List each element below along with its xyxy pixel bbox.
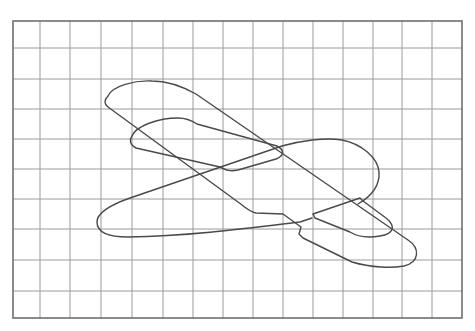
upper-small-wing-outline <box>130 118 282 171</box>
fuselage-outline <box>97 139 379 237</box>
airplane-grid-diagram <box>0 0 475 331</box>
tail-stabilizer-outline <box>313 198 392 237</box>
